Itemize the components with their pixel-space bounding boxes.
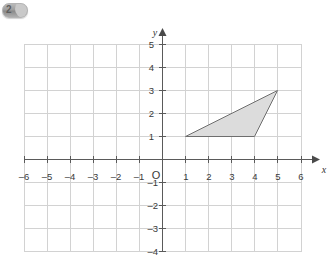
- origin-label: O: [152, 169, 161, 181]
- coordinate-plane: –6 –5 –4 –3 –2 –1 1 2 3 4 5 6 5 4 3 2 1 …: [0, 0, 331, 280]
- y-tick-label-5: 5: [149, 39, 154, 50]
- x-tick-label-neg1: –1: [134, 171, 145, 182]
- y-tick-label-2: 2: [149, 108, 154, 119]
- x-tick-label-6: 6: [298, 171, 303, 182]
- y-tick-label-1: 1: [149, 131, 154, 142]
- y-axis-label: y: [152, 27, 158, 38]
- y-tick-label-3: 3: [149, 85, 154, 96]
- y-axis-arrow-icon: [159, 28, 167, 36]
- x-tick-label-4: 4: [252, 171, 257, 182]
- x-axis-arrow-icon: [312, 156, 320, 164]
- x-tick-label-neg2: –2: [111, 171, 122, 182]
- x-tick-label-1: 1: [183, 171, 188, 182]
- x-tick-label-neg4: –4: [65, 171, 76, 182]
- y-tick-label-4: 4: [149, 62, 154, 73]
- graph-page: 2: [0, 0, 331, 280]
- x-tick-label-5: 5: [275, 171, 280, 182]
- x-tick-label-2: 2: [206, 171, 211, 182]
- x-tick-label-neg5: –5: [42, 171, 53, 182]
- x-tick-label-neg3: –3: [88, 171, 99, 182]
- y-tick-label-neg3: –3: [147, 223, 158, 234]
- y-tick-label-neg2: –2: [147, 200, 158, 211]
- x-tick-label-3: 3: [229, 171, 234, 182]
- x-tick-label-neg6: –6: [19, 171, 30, 182]
- y-tick-label-neg4: –4: [147, 246, 158, 257]
- x-axis-label: x: [321, 164, 327, 175]
